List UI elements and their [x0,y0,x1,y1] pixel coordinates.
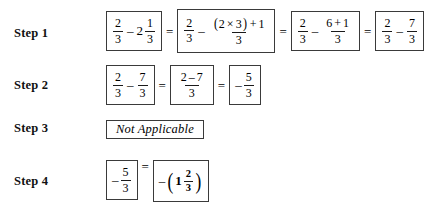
fraction-two-thirds: 2 3 [184,17,194,44]
denominator: 3 [138,85,148,99]
numerator: 6+1 [322,17,353,30]
denominator: 3 [121,180,131,194]
expression-box-1-1: 2 3 – 2 1 3 [106,11,162,51]
step-label-1: Step 1 [14,26,48,41]
step-1-expressions: 2 3 – 2 1 3 = 2 3 [106,6,424,56]
expression-box-1-2: 2 3 – (2×3)+1 3 [177,9,275,53]
denominator: 3 [145,31,155,45]
whole-number: 2 [137,23,145,39]
numerator: 2 [184,169,193,181]
math-expression: – ( 1 2 3 ) [159,169,203,193]
numerator: 1 [145,17,155,30]
fraction-sum-numerator: 6+1 3 [322,17,353,44]
denominator: 3 [113,31,123,45]
numerator: 2 [113,71,123,84]
fraction-two-thirds: 2 3 [184,169,193,193]
plus-operator: + [248,17,259,31]
expression-box-1-3: 2 3 – 6+1 3 [291,11,360,51]
step-label-3: Step 3 [14,121,48,136]
fraction-expanded-numerator: (2×3)+1 3 [209,16,269,46]
not-applicable-text: Not Applicable [112,121,198,138]
step-label-4: Step 4 [14,174,48,189]
denominator: 3 [298,31,308,45]
addend: 1 [258,17,264,31]
whole-number: 1 [175,173,183,189]
fraction-difference-numerator: 2–7 3 [177,71,207,98]
step-2-expressions: 2 3 – 7 3 = 2–7 3 [106,62,261,108]
minus-operator: – [187,70,197,84]
minus-operator: – [309,23,322,39]
denominator: 3 [244,85,254,99]
minuend: 2 [181,70,187,84]
denominator: 3 [185,85,199,99]
negative-sign: – [235,77,243,93]
negative-sign: – [112,172,120,188]
fraction-two-thirds: 2 3 [298,17,308,44]
expression-box-4-2: – ( 1 2 3 ) [153,160,209,202]
numerator: 5 [121,166,131,179]
fraction-five-thirds: 5 3 [244,71,254,98]
expression-box-2-2: 2–7 3 [170,65,214,105]
minus-operator: – [393,23,406,39]
denominator: 3 [382,31,392,45]
math-expression: 2 3 – 2 1 3 [112,17,156,44]
fraction-one-third: 1 3 [145,17,155,44]
equals-sign: = [214,79,229,92]
minus-operator: – [124,77,137,93]
fraction-two-thirds: 2 3 [113,17,123,44]
expression-box-2-1: 2 3 – 7 3 [106,65,155,105]
open-paren: ( [168,172,174,191]
denominator: 3 [113,85,123,99]
math-expression: 2 3 – 7 3 [112,71,149,98]
open-paren: ( [213,16,218,31]
math-expression: 2 3 – 7 3 [381,17,418,44]
denominator: 3 [184,30,194,44]
numerator: 7 [407,17,417,30]
fraction-five-thirds: 5 3 [121,166,131,193]
math-expression: 2 3 – (2×3)+1 3 [183,16,269,46]
denominator: 3 [232,32,246,46]
math-expression: 2 3 – 6+1 3 [297,17,354,44]
minus-operator: – [124,23,137,39]
expression-box-1-4: 2 3 – 7 3 [375,11,424,51]
step-4-expressions: – 5 3 = – ( 1 2 3 ) [106,160,209,204]
close-paren: ) [242,16,247,31]
negative-sign: – [159,173,167,189]
subtrahend: 7 [197,70,203,84]
fraction-two-thirds: 2 3 [382,17,392,44]
equals-sign: = [275,25,290,38]
numerator: 2 [184,17,194,30]
numerator: (2×3)+1 [209,16,269,32]
numerator: 2 [298,17,308,30]
denominator: 3 [184,181,193,194]
equals-sign: = [138,160,153,173]
addend-b: 1 [343,16,349,30]
step-3-expressions: Not Applicable [106,112,204,146]
math-expression: – 5 3 [112,166,132,193]
expression-box-2-3: – 5 3 [229,65,261,105]
equals-sign: = [360,25,375,38]
denominator: 3 [407,31,417,45]
numerator: 7 [138,71,148,84]
fraction-seven-thirds: 7 3 [138,71,148,98]
fraction-two-thirds: 2 3 [113,71,123,98]
numerator: 2 [382,17,392,30]
factor-b: 3 [236,17,242,31]
plus-operator: + [332,16,343,30]
denominator: 3 [331,31,345,45]
expression-box-4-1: – 5 3 [106,160,138,200]
times-operator: × [225,17,236,31]
equals-sign: = [155,79,170,92]
numerator: 5 [244,71,254,84]
factor-a: 2 [219,17,225,31]
minus-operator: – [195,23,208,39]
step-label-2: Step 2 [14,78,48,93]
not-applicable-box: Not Applicable [106,120,204,139]
math-expression: – 5 3 [235,71,255,98]
equals-sign: = [162,25,177,38]
numerator: 2–7 [177,71,207,84]
close-paren: ) [195,172,201,191]
numerator: 2 [113,17,123,30]
fraction-seven-thirds: 7 3 [407,17,417,44]
